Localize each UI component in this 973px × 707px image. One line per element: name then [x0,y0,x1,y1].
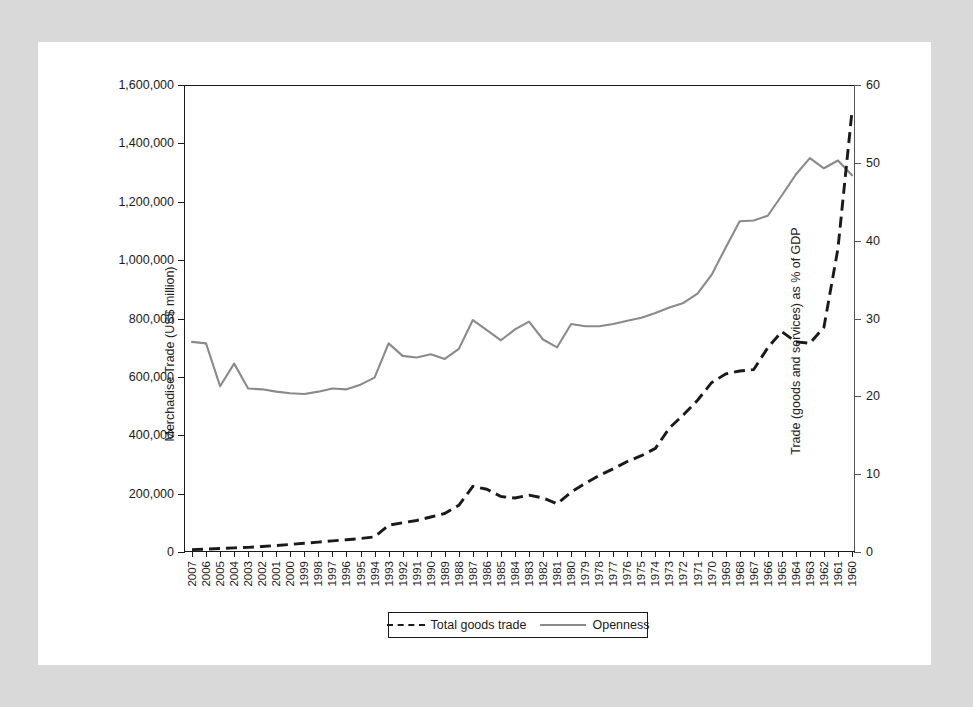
x-axis-tick-label: 1999 [298,561,310,587]
x-axis-tick-label: 1975 [635,561,647,587]
x-axis-tick-label: 1971 [692,561,704,587]
legend-label-openness: Openness [592,618,649,632]
legend-item-total-goods-trade: Total goods trade [387,618,527,632]
y-axis-right-tick-label: 0 [866,545,873,559]
x-axis-tick-label: 1979 [579,561,591,587]
x-axis-tick-label: 1982 [537,561,549,587]
x-axis-tick-label: 1973 [663,561,675,587]
x-axis-tick-label: 1965 [776,561,788,587]
x-axis-tick-label: 1967 [748,561,760,587]
x-axis-tick-label: 1963 [804,561,816,587]
chart-figure: Merchadise Trade (US$ million) Trade (go… [38,42,931,665]
x-axis-tick-label: 1974 [649,561,661,587]
y-axis-left-tick-label: 600,000 [129,370,174,384]
y-axis-left-tick-label: 1,000,000 [118,253,174,267]
y-axis-right-tick [854,474,861,475]
x-axis-tick-label: 1980 [565,561,577,587]
y-axis-left-title: Merchadise Trade (US$ million) [163,266,177,441]
x-axis-tick-label: 1995 [355,561,367,587]
y-axis-right-tick [854,319,861,320]
x-axis-tick-label: 2007 [186,561,198,587]
x-axis-tick-label: 2005 [214,561,226,587]
y-axis-right-tick-label: 60 [866,78,880,92]
x-axis-tick-label: 2000 [284,561,296,587]
y-axis-right-tick [854,552,861,553]
x-axis-tick-label: 1978 [593,561,605,587]
series-line-openness [192,158,852,394]
x-axis-tick-label: 1981 [551,561,563,587]
x-axis-tick-label: 1991 [411,561,423,587]
x-axis-tick-label: 2004 [228,561,240,587]
x-axis-tick-label: 1962 [818,561,830,587]
y-axis-left-tick-label: 1,200,000 [118,195,174,209]
x-axis-tick-label: 1983 [523,561,535,587]
x-axis-tick-label: 1966 [762,561,774,587]
x-axis-tick-label: 1977 [607,561,619,587]
x-axis-tick-label: 1997 [326,561,338,587]
x-axis-tick-label: 1985 [495,561,507,587]
x-axis-tick-label: 1992 [397,561,409,587]
y-axis-left-tick-label: 0 [167,545,174,559]
y-axis-left-tick-label: 400,000 [129,428,174,442]
x-axis-tick-label: 1994 [369,561,381,587]
x-axis-tick-label: 1972 [677,561,689,587]
legend-swatch-dashed-icon [387,624,425,626]
x-axis-tick-label: 1987 [467,561,479,587]
y-axis-left-tick-label: 1,600,000 [118,78,174,92]
x-axis-tick-label: 1960 [846,561,858,587]
x-axis-tick-label: 1996 [340,561,352,587]
y-axis-right-tick-label: 40 [866,234,880,248]
x-axis-tick-label: 1984 [509,561,521,587]
y-axis-right-tick-label: 30 [866,312,880,326]
x-axis-tick-label: 1989 [439,561,451,587]
legend-item-openness: Openness [540,618,649,632]
x-axis-tick-label: 1993 [383,561,395,587]
x-axis-tick-label: 1986 [481,561,493,587]
y-axis-left-tick-label: 200,000 [129,487,174,501]
y-axis-right-tick-label: 20 [866,389,880,403]
x-axis-tick-label: 2003 [242,561,254,587]
x-axis-tick-label: 1990 [425,561,437,587]
legend-label-total-goods-trade: Total goods trade [431,618,527,632]
x-axis-tick-label: 2006 [200,561,212,587]
x-axis-tick-label: 1988 [453,561,465,587]
x-axis-tick-label: 2002 [256,561,268,587]
y-axis-right-tick [854,85,861,86]
y-axis-right-tick [854,163,861,164]
y-axis-right-tick-label: 10 [866,467,880,481]
series-lines [184,85,855,552]
x-axis-tick-label: 1970 [706,561,718,587]
x-axis-tick-label: 1968 [734,561,746,587]
y-axis-right-tick-label: 50 [866,156,880,170]
y-axis-left-tick-label: 1,400,000 [118,136,174,150]
plot-area: 0200,000400,000600,000800,0001,000,0001,… [184,85,855,552]
series-line-total-goods-trade [192,111,852,549]
chart-legend: Total goods trade Openness [388,612,648,638]
x-axis-tick-label: 1998 [312,561,324,587]
legend-swatch-solid-icon [540,624,586,626]
y-axis-right-tick [854,241,861,242]
x-axis-tick-label: 1961 [832,561,844,587]
x-axis-tick-label: 1964 [790,561,802,587]
y-axis-left-tick-label: 800,000 [129,312,174,326]
y-axis-left-tick [178,552,185,553]
x-axis-tick-label: 2001 [270,561,282,587]
y-axis-right-tick [854,396,861,397]
page-background: Merchadise Trade (US$ million) Trade (go… [0,0,973,707]
x-axis-tick-label: 1976 [621,561,633,587]
x-axis-tick-label: 1969 [720,561,732,587]
